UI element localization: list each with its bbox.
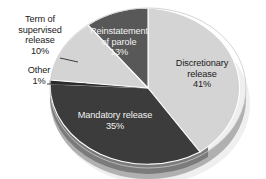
slice-label-line: supervised — [18, 25, 61, 35]
slice-label-other: Other 1% — [8, 65, 70, 86]
slice-label-mandatory-release: Mandatory release 35% — [62, 110, 168, 131]
slice-label-line: release — [187, 69, 216, 79]
slice-value-mandatory: 35% — [106, 121, 124, 131]
slice-label-line: Term of — [25, 14, 55, 24]
slice-label-line: Other — [28, 65, 50, 75]
slice-label-reinstatement-of-parole: Reinstatement of parole 13% — [82, 26, 156, 58]
slice-label-discretionary-release: Discretionary release 41% — [160, 58, 244, 90]
slice-value-other: 1% — [8, 76, 70, 87]
slice-value-reinstatement: 13% — [110, 47, 128, 57]
slice-label-line: Reinstatement — [90, 26, 148, 36]
slice-label-line: Mandatory release — [78, 110, 152, 120]
slice-label-line: release — [25, 35, 54, 45]
slice-label-term-of-supervised-release: Term of supervised release 10% — [4, 14, 76, 56]
pie-chart: Term of supervised release 10% Other 1% … — [0, 0, 266, 179]
slice-value-discretionary: 41% — [193, 79, 211, 89]
slice-label-line: Discretionary — [176, 58, 228, 68]
slice-label-line: of parole — [102, 37, 137, 47]
slice-value-term: 10% — [4, 46, 76, 57]
